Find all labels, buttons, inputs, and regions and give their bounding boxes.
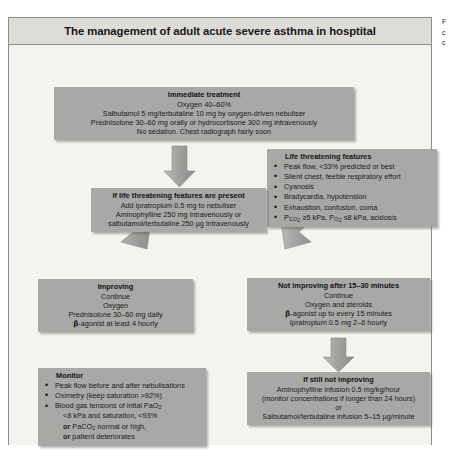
figure-page: The management of adult acute severe ast… [0, 0, 473, 463]
box-line-beta-agonist: β-agonist at least 4 hourly [42, 319, 189, 328]
box-monitor: Monitor Peak flow before and after nebul… [38, 368, 206, 446]
side-caption: F c c [442, 17, 473, 49]
list-item: Silent chest, feeble respiratory effort [271, 172, 433, 182]
side-caption-line: F [442, 17, 473, 28]
side-caption-line: c [442, 38, 473, 49]
box-line: salbutamol/terbutaline 250 µg intravenou… [95, 219, 262, 228]
arrow-notimproving-to-stillnot [323, 338, 354, 372]
arrow-immediate-to-iflife [164, 146, 195, 187]
box-line: Oxygen 40–60% [58, 100, 350, 109]
box-line: Ipratropium 0.5 mg 2–6 hourly [251, 318, 426, 327]
box-header: Monitor [42, 371, 202, 380]
box-line: Add ipratropium 0.5 mg to nebuliser [95, 201, 262, 210]
page-title: The management of adult acute severe ast… [64, 25, 376, 37]
list-item-blood-gas: Blood gas tensions of intial PaO2 [42, 401, 202, 411]
list-item-deteriorates: or patient deteriorates [42, 432, 202, 442]
box-line: Prednisolone 30–60 mg orally or hydrocor… [58, 118, 350, 127]
box-line: Salbutamol 5 mg/terbutaline 10 mg by oxy… [58, 109, 350, 118]
flowchart-area: Immediate treatment Oxygen 40–60% Salbut… [9, 46, 431, 445]
box-line: or [251, 403, 426, 412]
monitor-list: Peak flow before and after nebulisations… [42, 381, 202, 442]
box-header: If life threatening features are present [95, 191, 262, 200]
box-header: If still not improving [251, 375, 426, 384]
box-if-life-threatening-present: If life threatening features are present… [91, 188, 266, 232]
box-line: Continue [42, 292, 189, 301]
pco2-value: PCO2 ≥5 kPa, PO2 ≤8 kPa, acidosis [284, 213, 397, 222]
box-header: Life threatening features [271, 152, 433, 161]
list-item: Oximetry (keep saturation >92%) [42, 391, 202, 401]
figure-panel: The management of adult acute severe ast… [8, 17, 432, 445]
box-if-still-not-improving: If still not improving Aminophylline inf… [247, 372, 430, 425]
list-item-continuation: <8 kPa and saturation, <93% [42, 411, 202, 421]
list-item: Peak flow, <33% predicted or best [271, 162, 433, 172]
box-line: Aminophylline infusion 0.5 mg/kg/hour [251, 385, 426, 394]
list-item: Bradycardia, hypotension [271, 192, 433, 202]
beta-symbol: β [73, 319, 78, 328]
list-item: Peak flow before and after nebulisations [42, 381, 202, 391]
box-line: Oxygen and steroids [251, 300, 426, 309]
list-item: Exhaustion, confusion, coma [271, 203, 433, 213]
life-threatening-list: Peak flow, <33% predicted or best Silent… [271, 162, 433, 223]
box-line: Oxygen [42, 301, 189, 310]
figure-title-bar: The management of adult acute severe ast… [9, 18, 431, 45]
beta-symbol: β [285, 309, 290, 318]
box-line: (monitor concentrations if longer than 2… [251, 394, 426, 403]
box-line: No sedation. Chest radiograph fairly soo… [58, 127, 350, 136]
box-life-threatening-features: Life threatening features Peak flow, <33… [267, 149, 437, 227]
box-line: Continue [251, 291, 426, 300]
box-line: Aminophylline 250 mg intravenously or [95, 210, 262, 219]
list-item-paco2: or PaCO2 normal or high, [42, 422, 202, 432]
box-improving: Improving Continue Oxygen Prednisolone 3… [38, 279, 193, 332]
box-header: Improving [42, 282, 189, 291]
box-line-beta-agonist: β-agonist up to every 15 minutes [251, 309, 426, 318]
side-caption-line: c [442, 28, 473, 39]
box-header: Immediate treatment [58, 90, 350, 99]
box-not-improving: Not improving after 15–30 minutes Contin… [247, 278, 430, 331]
box-immediate-treatment: Immediate treatment Oxygen 40–60% Salbut… [54, 87, 354, 140]
list-item-blood-gas: PCO2 ≥5 kPa, PO2 ≤8 kPa, acidosis [271, 213, 433, 223]
box-line: Salbutamol/terbutaline infusion 5–15 µg/… [251, 412, 426, 421]
box-line: Prednisolone 30–60 mg daily [42, 310, 189, 319]
list-item: Cyanosis [271, 182, 433, 192]
box-header: Not improving after 15–30 minutes [251, 281, 426, 290]
